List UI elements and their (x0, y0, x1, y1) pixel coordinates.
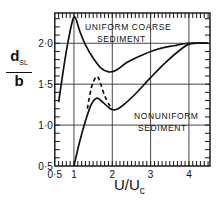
annotation-nonuniform-line1: NONUNIFORM (134, 111, 199, 121)
x-den-subscript: c (140, 185, 145, 196)
x-den-text: U (129, 176, 140, 193)
x-axis-label: U/Uc (114, 176, 145, 196)
y-tick-label: 0·5 (38, 161, 53, 172)
y-tick-label: 2·0 (38, 38, 53, 49)
x-tick-label: 1 (71, 169, 77, 180)
y-axis-numerator: dSL (6, 48, 32, 73)
y-num-subscript: SL (19, 59, 28, 66)
annotation-uniform-line1: UNIFORM COARSE (85, 22, 171, 32)
x-tick-label: 4 (186, 169, 192, 180)
annotation-nonuniform-line2: SEDIMENT (138, 123, 187, 133)
scour-depth-chart: 0·512340·51·01·52·0 UNIFORM COARSE SEDIM… (0, 0, 221, 208)
annotation-uniform-line2: SEDIMENT (97, 34, 146, 44)
x-num-text: U (114, 176, 125, 193)
y-axis-label: dSL b (6, 48, 32, 89)
y-axis-denominator: b (14, 72, 23, 89)
series-line-1 (74, 43, 208, 166)
y-tick-label: 1·5 (38, 79, 53, 90)
y-num-text: d (10, 47, 19, 64)
x-tick-label: 3 (148, 169, 154, 180)
y-tick-label: 1·0 (38, 120, 53, 131)
